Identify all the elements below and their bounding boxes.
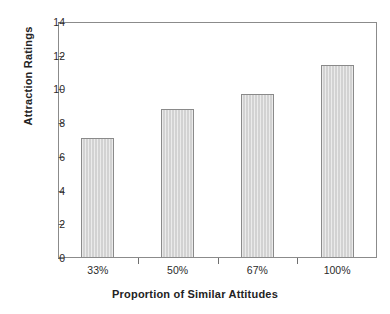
bar <box>241 94 274 258</box>
x-tick-mark <box>138 258 139 264</box>
y-tick-label: 12 <box>41 50 65 62</box>
y-tick-label: 6 <box>41 151 65 163</box>
y-tick-label: 14 <box>41 16 65 28</box>
y-tick-label: 2 <box>41 218 65 230</box>
bar <box>161 109 194 258</box>
y-tick-label: 4 <box>41 185 65 197</box>
x-tick-mark <box>297 258 298 264</box>
y-tick-label: 10 <box>41 83 65 95</box>
x-tick-label: 100% <box>307 264 367 276</box>
x-tick-label: 67% <box>227 264 287 276</box>
y-tick-label: 8 <box>41 117 65 129</box>
bar-chart: Attraction Ratings 02468101214 33%50%67%… <box>0 0 390 314</box>
x-tick-mark <box>218 258 219 264</box>
bar <box>321 65 354 258</box>
x-tick-label: 33% <box>68 264 128 276</box>
bar <box>81 138 114 258</box>
x-axis-title: Proportion of Similar Attitudes <box>0 288 390 300</box>
x-tick-label: 50% <box>148 264 208 276</box>
y-axis-title: Attraction Ratings <box>22 0 34 156</box>
y-tick-label: 0 <box>41 252 65 264</box>
